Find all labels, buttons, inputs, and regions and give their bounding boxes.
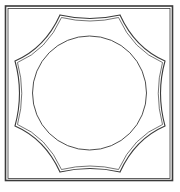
square-frame: [6, 6, 173, 181]
figure-caption: [4, 184, 176, 192]
ornament-figure: [0, 0, 180, 192]
center-circle: [33, 36, 147, 150]
concave-octagram: [15, 15, 165, 172]
